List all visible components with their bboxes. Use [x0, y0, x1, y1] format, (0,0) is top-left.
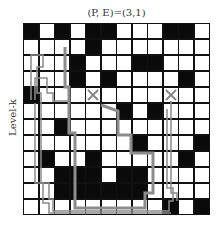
free-cell: [71, 136, 85, 150]
wall-cell: [55, 24, 69, 38]
wall-cell: [179, 24, 193, 38]
free-cell: [195, 24, 209, 38]
wall-cell: [195, 136, 209, 150]
free-cell: [117, 72, 131, 86]
free-cell: [102, 200, 116, 214]
free-cell: [133, 200, 147, 214]
free-cell: [71, 120, 85, 134]
wall-cell: [133, 168, 147, 182]
free-cell: [179, 200, 193, 214]
free-cell: [133, 152, 147, 166]
free-cell: [195, 104, 209, 118]
free-cell: [86, 200, 100, 214]
free-cell: [195, 40, 209, 54]
wall-cell: [71, 72, 85, 86]
free-cell: [148, 120, 162, 134]
free-cell: [55, 88, 69, 102]
free-cell: [148, 152, 162, 166]
free-cell: [164, 120, 178, 134]
free-cell: [24, 120, 38, 134]
free-cell: [40, 184, 54, 198]
wall-cell: [179, 72, 193, 86]
free-cell: [148, 72, 162, 86]
free-cell: [40, 120, 54, 134]
free-cell: [148, 136, 162, 150]
free-cell: [195, 168, 209, 182]
wall-cell: [102, 72, 116, 86]
free-cell: [86, 104, 100, 118]
free-cell: [86, 120, 100, 134]
free-cell: [86, 88, 100, 102]
wall-cell: [148, 104, 162, 118]
wall-cell: [86, 184, 100, 198]
free-cell: [24, 136, 38, 150]
free-cell: [164, 104, 178, 118]
free-cell: [164, 40, 178, 54]
free-cell: [24, 200, 38, 214]
free-cell: [71, 88, 85, 102]
free-cell: [71, 104, 85, 118]
free-cell: [40, 72, 54, 86]
free-cell: [164, 184, 178, 198]
free-cell: [117, 200, 131, 214]
free-cell: [40, 136, 54, 150]
free-cell: [71, 152, 85, 166]
free-cell: [195, 72, 209, 86]
free-cell: [40, 168, 54, 182]
free-cell: [195, 184, 209, 198]
wall-cell: [24, 88, 38, 102]
maze-grid: [23, 23, 210, 215]
free-cell: [55, 200, 69, 214]
wall-cell: [164, 24, 178, 38]
free-cell: [117, 88, 131, 102]
free-cell: [71, 40, 85, 54]
free-cell: [148, 184, 162, 198]
y-axis-label: Level-k: [7, 88, 18, 148]
wall-cell: [195, 200, 209, 214]
free-cell: [102, 136, 116, 150]
free-cell: [55, 40, 69, 54]
wall-cell: [133, 136, 147, 150]
wall-cell: [71, 168, 85, 182]
free-cell: [164, 88, 178, 102]
free-cell: [133, 104, 147, 118]
wall-cell: [117, 168, 131, 182]
free-cell: [71, 24, 85, 38]
free-cell: [148, 40, 162, 54]
wall-cell: [86, 40, 100, 54]
free-cell: [40, 104, 54, 118]
wall-cell: [86, 24, 100, 38]
free-cell: [179, 40, 193, 54]
free-cell: [117, 40, 131, 54]
free-cell: [164, 56, 178, 70]
free-cell: [117, 120, 131, 134]
free-cell: [195, 120, 209, 134]
free-cell: [164, 152, 178, 166]
wall-cell: [55, 120, 69, 134]
wall-cell: [86, 168, 100, 182]
free-cell: [102, 104, 116, 118]
free-cell: [24, 168, 38, 182]
free-cell: [133, 88, 147, 102]
free-cell: [133, 40, 147, 54]
free-cell: [40, 56, 54, 70]
free-cell: [179, 88, 193, 102]
free-cell: [24, 40, 38, 54]
wall-cell: [117, 184, 131, 198]
free-cell: [55, 56, 69, 70]
free-cell: [117, 152, 131, 166]
free-cell: [117, 136, 131, 150]
wall-cell: [71, 184, 85, 198]
free-cell: [179, 56, 193, 70]
free-cell: [117, 56, 131, 70]
free-cell: [24, 104, 38, 118]
free-cell: [179, 136, 193, 150]
free-cell: [24, 152, 38, 166]
free-cell: [179, 184, 193, 198]
free-cell: [133, 120, 147, 134]
wall-cell: [55, 168, 69, 182]
free-cell: [102, 120, 116, 134]
free-cell: [148, 200, 162, 214]
figure-title: (P, E)=(3,1): [23, 7, 210, 18]
free-cell: [40, 88, 54, 102]
